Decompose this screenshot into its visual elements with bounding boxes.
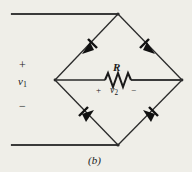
diode-bottom-right [143, 107, 158, 122]
output-minus-label: − [131, 86, 136, 95]
input-voltage-label: v1 [18, 76, 27, 89]
input-minus-label: − [19, 100, 26, 112]
node-left [54, 79, 57, 82]
input-voltage-subscript: 1 [23, 80, 27, 89]
figure-container: + v1 − R + v2 − (b) [0, 0, 192, 172]
wire-upper-left-arm [55, 14, 118, 80]
resistor-label: R [113, 62, 120, 73]
diode-top-left [82, 39, 97, 54]
node-top [116, 12, 119, 15]
output-voltage-subscript: 2 [114, 89, 118, 97]
input-plus-label: + [19, 59, 26, 71]
node-right [181, 79, 184, 82]
node-bottom [116, 143, 119, 146]
diode-top-right [140, 39, 155, 54]
figure-caption: (b) [88, 155, 101, 166]
output-voltage-label: v2 [110, 85, 118, 97]
diode-bottom-left [79, 107, 94, 122]
output-plus-label: + [96, 86, 101, 95]
